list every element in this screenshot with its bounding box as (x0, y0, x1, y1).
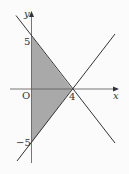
shaded-region (32, 36, 73, 143)
tick-label-x-4: 4 (69, 91, 75, 102)
coordinate-graph: y x O 5 −5 4 (0, 0, 129, 174)
x-axis-label: x (113, 90, 119, 101)
line-decreasing (16, 16, 115, 144)
tick-label-y-neg5: −5 (16, 137, 31, 148)
y-axis-label: y (23, 8, 30, 19)
y-axis-arrow-icon (29, 11, 34, 17)
tick-label-y-5: 5 (24, 36, 30, 47)
origin-label: O (22, 90, 30, 101)
